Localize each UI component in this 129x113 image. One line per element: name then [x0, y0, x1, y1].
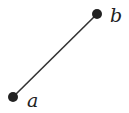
label-b: b [110, 4, 122, 26]
label-a: a [27, 89, 38, 111]
point-a [8, 92, 18, 102]
segment-ab [13, 14, 97, 97]
diagram-canvas: a b [0, 0, 129, 113]
point-b [92, 9, 102, 19]
